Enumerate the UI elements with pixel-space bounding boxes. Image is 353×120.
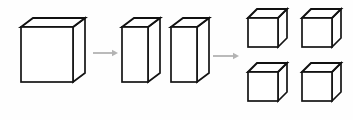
slab-left xyxy=(122,18,160,82)
large-cube-top-face xyxy=(21,18,85,27)
small-cube-bottom-left-front-face xyxy=(248,72,278,101)
slab-right xyxy=(171,18,209,82)
cube-subdivision-diagram xyxy=(0,0,353,120)
two-slabs xyxy=(122,18,209,82)
arrows-layer xyxy=(93,50,239,59)
small-cube-bottom-right xyxy=(302,63,341,101)
figure-root xyxy=(0,0,353,120)
slab-left-right-face xyxy=(148,18,160,82)
small-cube-top-right-front-face xyxy=(302,18,332,47)
small-cube-top-left-front-face xyxy=(248,18,278,47)
shapes-layer xyxy=(21,9,341,101)
arrow-stage2-to-stage3 xyxy=(213,53,239,59)
small-cube-top-right xyxy=(302,9,341,47)
arrow-stage1-to-stage2 xyxy=(93,50,118,56)
small-cube-top-left xyxy=(248,9,287,47)
slab-left-front-face xyxy=(122,27,148,82)
small-cube-bottom-left xyxy=(248,63,287,101)
slab-right-right-face xyxy=(197,18,209,82)
small-cube-bottom-right-front-face xyxy=(302,72,332,101)
arrow-stage1-to-stage2-head xyxy=(112,50,118,56)
large-cube-right-face xyxy=(73,18,85,82)
slab-right-front-face xyxy=(171,27,197,82)
arrow-stage2-to-stage3-head xyxy=(233,53,239,59)
four-small-cubes xyxy=(248,9,341,101)
large-cube-front-face xyxy=(21,27,73,82)
single-large-cube xyxy=(21,18,85,82)
large-cube xyxy=(21,18,85,82)
